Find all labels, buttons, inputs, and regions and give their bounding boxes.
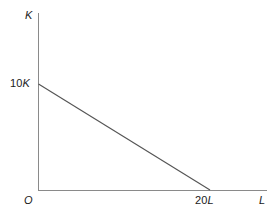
x-intercept-value: 20 — [195, 194, 207, 206]
y-intercept-label: 10K — [10, 78, 30, 89]
y-intercept-value: 10 — [10, 77, 22, 89]
x-axis-label: L — [259, 195, 265, 206]
y-intercept-unit: K — [22, 77, 29, 89]
budget-constraint-line — [39, 84, 211, 190]
origin-label: O — [24, 195, 33, 206]
y-axis-label: K — [25, 10, 32, 21]
x-intercept-label: 20L — [195, 195, 214, 206]
chart-plot-area — [0, 0, 279, 219]
isocost-line-chart: K 10K O 20L L — [0, 0, 279, 219]
x-intercept-unit: L — [207, 194, 213, 206]
